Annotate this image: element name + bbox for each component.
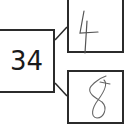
handwritten-answers [0,0,132,128]
part-bottom-value [90,76,110,118]
part-top-value [80,11,98,53]
